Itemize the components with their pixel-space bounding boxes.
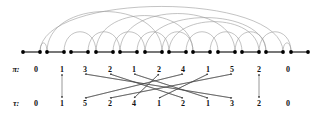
arc xyxy=(137,32,169,52)
tau-value-3: 2 xyxy=(108,99,112,108)
mapping-arrow xyxy=(159,74,208,98)
pi-value-2: 3 xyxy=(83,65,87,74)
mapping-arrow xyxy=(85,74,232,98)
node-dot xyxy=(38,50,42,54)
pi-value-3: 2 xyxy=(108,65,112,74)
node-dot xyxy=(69,50,73,54)
arc xyxy=(145,18,266,52)
arcs-layer xyxy=(40,6,291,52)
node-dot xyxy=(264,50,268,54)
pi-value-10: 0 xyxy=(286,65,290,74)
tau-row-label: τ: xyxy=(13,99,19,108)
mapping-arrow xyxy=(134,74,159,98)
node-dot xyxy=(167,50,171,54)
tau-value-5: 1 xyxy=(157,99,161,108)
node-dot xyxy=(118,50,122,54)
node-dot xyxy=(86,50,90,54)
node-dot xyxy=(216,50,220,54)
arc xyxy=(64,32,96,52)
nodes-layer xyxy=(21,50,310,54)
arc xyxy=(113,32,145,52)
node-dot xyxy=(111,50,115,54)
node-dot xyxy=(191,50,195,54)
pi-value-4: 1 xyxy=(132,65,136,74)
node-dot xyxy=(45,50,49,54)
node-dot xyxy=(62,50,66,54)
tau-value-10: 0 xyxy=(286,99,290,108)
arc xyxy=(186,32,218,52)
arc xyxy=(235,32,266,52)
node-dot xyxy=(281,50,285,54)
mapping-arrow xyxy=(85,74,183,98)
node-dot xyxy=(208,50,212,54)
node-dot xyxy=(289,50,293,54)
node-dot xyxy=(135,50,139,54)
tau-value-8: 3 xyxy=(230,99,234,108)
tau-value-9: 2 xyxy=(257,99,261,108)
tau-value-0: 0 xyxy=(34,99,38,108)
pi-value-1: 1 xyxy=(60,65,64,74)
pi-row-label: π: xyxy=(12,65,19,74)
mapping-arrow xyxy=(110,74,232,98)
node-dot xyxy=(143,50,147,54)
diagram-graphics xyxy=(0,0,326,115)
figure-canvas: π: τ: 01321241520 01524121320 xyxy=(0,0,326,115)
mapping-arrows-layer xyxy=(62,74,259,98)
arc xyxy=(88,32,120,52)
arc xyxy=(210,32,242,52)
pi-value-0: 0 xyxy=(34,65,38,74)
node-dot xyxy=(257,50,261,54)
pi-value-8: 5 xyxy=(230,65,234,74)
tau-value-7: 1 xyxy=(206,99,210,108)
pi-value-7: 1 xyxy=(206,65,210,74)
node-dot xyxy=(184,50,188,54)
node-dot xyxy=(94,50,98,54)
tau-value-6: 2 xyxy=(181,99,185,108)
node-dot xyxy=(21,50,25,54)
pi-value-5: 2 xyxy=(157,65,161,74)
node-dot xyxy=(306,50,310,54)
tau-value-2: 5 xyxy=(83,99,87,108)
tau-value-4: 4 xyxy=(132,99,136,108)
node-dot xyxy=(160,50,164,54)
node-dot xyxy=(240,50,244,54)
tau-value-1: 1 xyxy=(60,99,64,108)
arc xyxy=(169,22,259,52)
pi-value-6: 4 xyxy=(181,65,185,74)
node-dot xyxy=(233,50,237,54)
pi-value-9: 2 xyxy=(257,65,261,74)
